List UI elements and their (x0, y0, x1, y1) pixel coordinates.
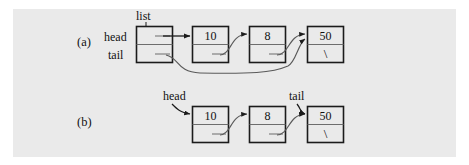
panel-a-node2-value: 8 (249, 30, 286, 42)
panel-b-label: (b) (77, 116, 92, 129)
diagram-vector-layer (0, 0, 469, 165)
panel-b-tail-label: tail (289, 90, 304, 102)
panel-a-node3-null: \ (307, 47, 344, 60)
arrow-b-tail-to-node3 (297, 104, 305, 114)
panel-a-node1-value: 10 (192, 30, 229, 42)
panel-b-node2-value: 8 (249, 110, 286, 122)
panel-b-head-label: head (163, 90, 186, 102)
panel-b-node1-value: 10 (192, 110, 229, 122)
list-handle-box (137, 27, 173, 63)
arrow-b-head-to-node1 (172, 104, 190, 114)
figure-canvas: (a) head tail list 10 8 50 \ (b) head ta… (0, 0, 469, 165)
panel-b-node3-value: 50 (307, 110, 344, 122)
panel-a-list-label: list (136, 10, 151, 22)
panel-a-node3-value: 50 (307, 30, 344, 42)
panel-b-node3-null: \ (307, 127, 344, 140)
panel-a-head-label: head (104, 31, 127, 43)
panel-a-tail-label: tail (108, 49, 123, 61)
panel-a-label: (a) (77, 36, 91, 49)
